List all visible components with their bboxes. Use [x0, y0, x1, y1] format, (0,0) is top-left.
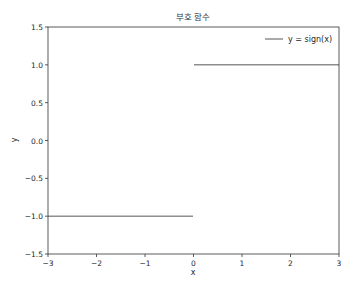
y-tick-label: 1.5 [31, 23, 43, 32]
legend: y = sign(x) [265, 35, 332, 44]
legend-label: y = sign(x) [288, 35, 332, 44]
x-tick-label: 2 [288, 259, 293, 268]
x-axis-label: x [191, 268, 196, 277]
chart: 부호 함수 −3−2−10123 −1.5−1.0−0.50.00.51.01.… [0, 0, 355, 289]
y-axis: −1.5−1.0−0.50.00.51.01.5 [25, 23, 48, 259]
plot-lines [48, 65, 339, 216]
x-axis: −3−2−10123 [42, 254, 341, 268]
y-tick-label: −1.0 [25, 212, 43, 221]
y-axis-label: y [10, 137, 19, 142]
x-tick-label: −2 [91, 259, 102, 268]
y-tick-label: −0.5 [25, 174, 43, 183]
y-tick-label: 0.0 [31, 137, 43, 146]
x-tick-label: −3 [42, 259, 53, 268]
chart-title: 부호 함수 [176, 12, 211, 22]
plot-frame [48, 27, 339, 254]
y-tick-label: 1.0 [31, 61, 43, 70]
x-tick-label: 1 [240, 259, 245, 268]
x-tick-label: 3 [337, 259, 342, 268]
y-tick-label: −1.5 [25, 250, 43, 259]
x-tick-label: −1 [139, 259, 150, 268]
x-tick-label: 0 [191, 259, 196, 268]
y-tick-label: 0.5 [31, 99, 43, 108]
